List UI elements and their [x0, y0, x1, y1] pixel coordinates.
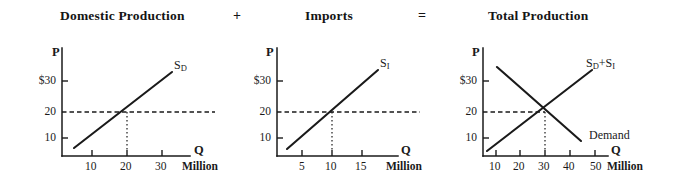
p3-x-tick-label-40: 40: [563, 160, 575, 172]
p3-supply-label-sub: D: [593, 61, 599, 71]
p3-x-tick-label-20: 20: [513, 160, 525, 172]
p3-supply-label-main2: +S: [599, 56, 612, 70]
p3-y-axis-label: P: [472, 45, 480, 60]
p3-x-tick-label-50: 50: [590, 160, 602, 172]
p3-demand-curve: [497, 67, 581, 141]
p3-y-tick-label-20: 20: [443, 105, 477, 117]
p3-supply-curve: [487, 70, 592, 151]
p3-y-tick-label-30: $30: [443, 74, 477, 86]
p3-supply-label-main: S: [586, 56, 593, 70]
p3-x-unit-label: Million: [607, 160, 643, 172]
p3-x-tick-label-10: 10: [489, 160, 501, 172]
p3-x-axis-label: Q: [611, 143, 621, 158]
p3-x-tick-label-30: 30: [538, 160, 550, 172]
p3-supply-label-sub2: I: [612, 61, 615, 71]
supply-curves-figure: Domestic Production + Imports = Total Pr…: [0, 0, 675, 195]
p3-supply-curve-label: SD+SI: [586, 56, 615, 71]
p3-demand-curve-label: Demand: [589, 128, 630, 143]
p3-y-tick-label-10: 10: [443, 131, 477, 143]
